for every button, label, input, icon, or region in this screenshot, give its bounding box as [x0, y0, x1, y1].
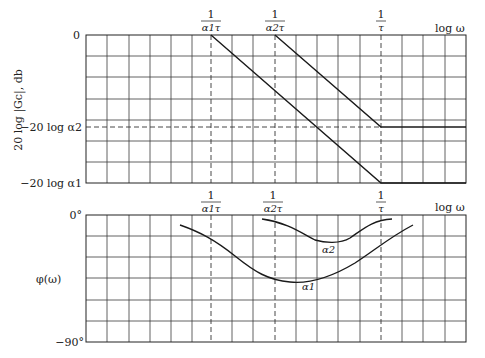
- magnitude-frame: [86, 35, 466, 183]
- magnitude-ylabel: 20 log |Gc|, db: [12, 69, 26, 151]
- bp1-num: 1: [208, 8, 215, 21]
- pbp3-den: τ: [378, 203, 384, 214]
- phase-plot: α2 α1: [86, 215, 466, 342]
- magnitude-xlabel: log ω: [435, 22, 465, 35]
- mag-tick-alpha1: −20 log α1: [20, 177, 82, 190]
- alpha2-curve-label: α2: [322, 244, 335, 255]
- bode-diagram: 1 α1τ 1 α2τ 1 τ log ω 0 −20 log α2 −20 l…: [0, 0, 485, 358]
- mag-tick-0: 0: [73, 29, 80, 42]
- phase-tick-90: −90°: [55, 336, 84, 349]
- bp2-num: 1: [272, 8, 279, 21]
- phase-frame: [86, 215, 466, 342]
- phase-breakpoint-labels: 1 α1τ 1 α2τ 1 τ log ω: [201, 189, 465, 214]
- phase-ylabel: φ(ω): [36, 273, 61, 286]
- magnitude-plot: [86, 35, 466, 183]
- phase-grid: [86, 215, 466, 342]
- magnitude-breakpoint-labels: 1 α1τ 1 α2τ 1 τ log ω: [201, 8, 465, 35]
- pbp2-num: 1: [270, 189, 277, 202]
- alpha1-curve-label: α1: [302, 281, 315, 292]
- mag-tick-alpha2: −20 log α2: [20, 121, 82, 134]
- pbp3-num: 1: [378, 189, 385, 202]
- pbp1-num: 1: [208, 189, 215, 202]
- phase-tick-0: 0°: [70, 209, 83, 222]
- alpha1-phase-curve: [180, 225, 413, 282]
- alpha2-phase-curve: [262, 219, 392, 242]
- alpha2-magnitude-curve: [275, 35, 466, 127]
- bp3-den: τ: [378, 22, 384, 33]
- magnitude-grid: [86, 35, 466, 183]
- pbp1-den: α1τ: [202, 203, 221, 214]
- pbp2-den: α2τ: [264, 203, 283, 214]
- bp1-den: α1τ: [202, 22, 221, 33]
- phase-xlabel: log ω: [435, 201, 465, 214]
- bp2-den: α2τ: [266, 22, 285, 33]
- bp3-num: 1: [378, 8, 385, 21]
- alpha1-magnitude-curve: [211, 35, 466, 183]
